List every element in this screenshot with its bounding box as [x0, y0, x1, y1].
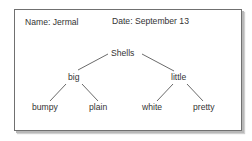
node-little: little — [171, 73, 186, 82]
edge-big-bumpy — [50, 84, 66, 101]
name-label: Name: Jermal — [25, 18, 78, 27]
node-big: big — [68, 73, 79, 82]
date-label: Date: September 13 — [112, 17, 189, 26]
edge-shells-big — [78, 54, 108, 70]
node-white: white — [142, 103, 162, 112]
node-shells: Shells — [111, 49, 134, 58]
node-bumpy: bumpy — [32, 103, 58, 112]
edge-shells-little — [142, 54, 174, 71]
edge-little-white — [157, 84, 173, 101]
edge-little-pretty — [187, 84, 203, 101]
edge-big-plain — [82, 84, 98, 101]
node-plain: plain — [89, 103, 107, 112]
node-pretty: pretty — [193, 103, 215, 112]
